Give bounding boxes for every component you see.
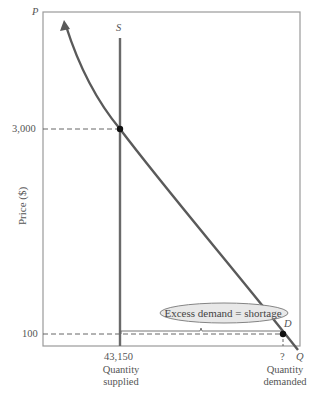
- plot-frame: [43, 12, 300, 346]
- chart-canvas: [0, 0, 312, 408]
- demand-point-d: [280, 331, 286, 337]
- shortage-annotation: Excess demand = shortage: [158, 303, 288, 323]
- caption-qd-line2: demanded: [258, 376, 312, 388]
- arrow-up-icon: [60, 20, 70, 31]
- tick-quantity-demanded: ?: [280, 351, 285, 362]
- tick-100: 100: [22, 328, 38, 339]
- caption-qs-line1: Quantity: [96, 364, 146, 376]
- equilibrium-point: [117, 126, 123, 132]
- caption-quantity-demanded: Quantity demanded: [258, 364, 312, 388]
- caption-quantity-supplied: Quantity supplied: [96, 364, 146, 388]
- supply-label: S: [116, 22, 121, 33]
- tick-3000: 3,000: [12, 123, 36, 134]
- y-axis-title: Price ($): [16, 176, 28, 236]
- caption-qd-line1: Quantity: [258, 364, 312, 376]
- demand-curve: [66, 26, 298, 350]
- p-axis-label: P: [32, 6, 38, 17]
- shortage-brace: [121, 328, 282, 334]
- caption-qs-line2: supplied: [96, 376, 146, 388]
- tick-quantity-supplied: 43,150: [104, 351, 133, 362]
- q-axis-label: Q: [296, 351, 304, 362]
